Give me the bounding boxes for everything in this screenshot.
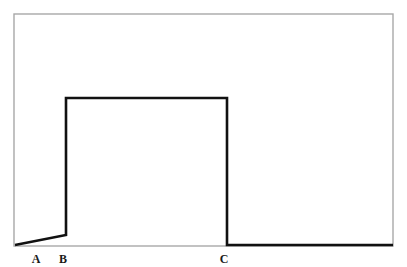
axis-label-a: A	[32, 252, 41, 266]
figure-canvas: A B C	[0, 0, 407, 267]
figure-root: A B C	[0, 0, 407, 267]
figure-background	[0, 0, 407, 267]
axis-label-c: C	[220, 252, 229, 266]
axis-label-b: B	[59, 252, 67, 266]
